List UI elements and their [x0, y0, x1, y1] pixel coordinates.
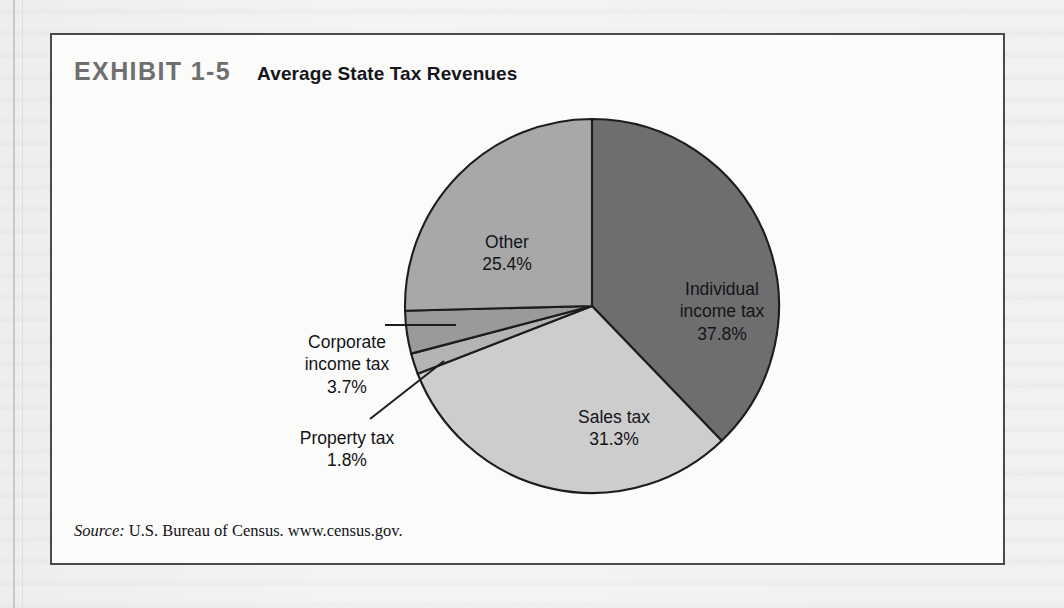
pie-label-other-value: 25.4% — [452, 253, 562, 275]
pie-label-corporate-value: 3.7% — [257, 376, 437, 398]
pie-slice-other — [405, 119, 592, 311]
source-text: U.S. Bureau of Census. www.census.gov. — [129, 521, 403, 540]
pie-label-property-name: Property tax — [257, 427, 437, 449]
pie-label-other-name: Other — [452, 231, 562, 253]
pie-label-individual-name-line2: income tax — [647, 300, 797, 322]
pie-label-individual-income-tax: Individual income tax 37.8% — [647, 278, 797, 345]
pie-label-corporate-name-line2: income tax — [257, 353, 437, 375]
pie-label-property-tax: Property tax 1.8% — [257, 427, 437, 472]
page-gutter-rule-inner — [22, 0, 23, 608]
pie-label-sales-name: Sales tax — [549, 406, 679, 428]
pie-label-corporate-name-line1: Corporate — [257, 331, 437, 353]
page-gutter-rule — [13, 0, 15, 608]
pie-label-individual-value: 37.8% — [647, 323, 797, 345]
pie-label-sales-value: 31.3% — [549, 428, 679, 450]
exhibit-frame: EXHIBIT 1-5 Average State Tax Revenues O — [50, 33, 1005, 565]
pie-chart-svg — [52, 35, 1003, 563]
pie-label-sales-tax: Sales tax 31.3% — [549, 406, 679, 451]
pie-label-other: Other 25.4% — [452, 231, 562, 276]
source-label: Source: — [74, 521, 125, 540]
source-line: Source: U.S. Bureau of Census. www.censu… — [74, 521, 403, 541]
pie-label-property-value: 1.8% — [257, 449, 437, 471]
pie-label-corporate-income-tax: Corporate income tax 3.7% — [257, 331, 437, 398]
pie-chart: Other 25.4% Individual income tax 37.8% … — [52, 35, 1003, 563]
pie-label-individual-name-line1: Individual — [647, 278, 797, 300]
